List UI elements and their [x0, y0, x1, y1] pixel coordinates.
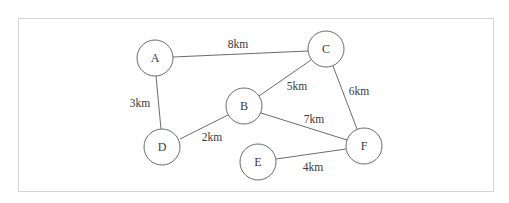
node-a: A — [137, 40, 173, 76]
edge-c-f — [333, 66, 357, 129]
edge-label-a-c: 8km — [228, 38, 249, 50]
edge-a-c — [173, 51, 308, 57]
node-b: B — [226, 88, 262, 124]
node-f-label: F — [361, 139, 368, 153]
node-c: C — [308, 31, 344, 67]
edge-label-d-b: 2km — [202, 131, 223, 143]
edge-label-c-f: 6km — [349, 85, 370, 97]
node-a-label: A — [151, 51, 160, 65]
node-e-label: E — [254, 155, 261, 169]
node-c-label: C — [322, 42, 330, 56]
node-e: E — [240, 144, 276, 180]
edge-label-a-d: 3km — [130, 97, 151, 109]
node-d: D — [144, 129, 180, 165]
edge-label-b-c: 5km — [287, 80, 308, 92]
edge-a-d — [156, 76, 161, 129]
edge-label-e-f: 4km — [303, 161, 324, 173]
node-b-label: B — [240, 99, 248, 113]
edge-label-b-f: 7km — [304, 113, 325, 125]
distance-graph: A B C D E F 8km 3km 2km 5km 7km 6km 4km — [0, 0, 509, 203]
node-f: F — [346, 128, 382, 164]
node-d-label: D — [158, 140, 167, 154]
edge-e-f — [276, 149, 346, 159]
